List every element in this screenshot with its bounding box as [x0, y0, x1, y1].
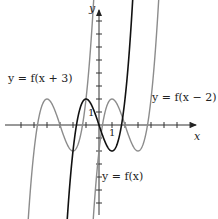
- curve-f-x-plus-3: [27, 0, 95, 219]
- label-f-x-plus-3: y = f(x + 3): [8, 72, 73, 85]
- curve-f-x: [66, 0, 134, 219]
- y-axis-label: y: [89, 2, 95, 15]
- y-tick-label-1: 1: [88, 107, 94, 118]
- plot-area: [0, 0, 218, 219]
- x-axis-label: x: [194, 130, 200, 143]
- label-f-x: y = f(x): [102, 170, 143, 183]
- label-f-x-minus-2: y = f(x − 2): [152, 91, 217, 104]
- x-tick-label-1: 1: [109, 127, 115, 138]
- graph: y = f(x + 3) y = f(x − 2) y = f(x) x y 1…: [0, 0, 218, 219]
- curve-f-x-minus-2: [92, 0, 160, 219]
